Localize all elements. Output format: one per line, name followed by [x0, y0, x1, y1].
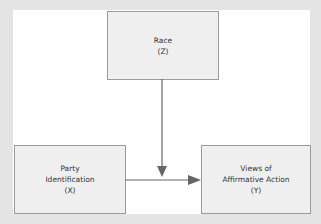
- arrow-z-to-edge: [157, 79, 167, 177]
- arrows: [0, 0, 321, 224]
- arrow-x-to-y: [125, 175, 201, 185]
